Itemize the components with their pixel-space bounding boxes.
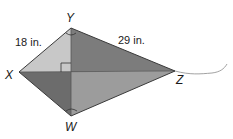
- vertex-label-z: Z: [175, 73, 184, 87]
- measurement-yz: 29 in.: [118, 34, 145, 46]
- kite-diagram: Y X Z W 18 in. 29 in.: [0, 0, 233, 139]
- vertex-label-y: Y: [66, 11, 75, 25]
- measurement-xy: 18 in.: [15, 36, 42, 48]
- vertex-label-x: X: [4, 68, 14, 82]
- vertex-label-w: W: [65, 120, 78, 134]
